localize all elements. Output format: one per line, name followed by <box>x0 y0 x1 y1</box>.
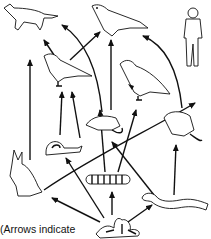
bird-icon <box>44 54 92 86</box>
caterpillar-icon <box>86 175 130 184</box>
shrew-icon <box>86 116 122 133</box>
mouse-icon <box>164 112 202 141</box>
human-icon <box>184 8 202 66</box>
hawk-icon <box>92 5 148 36</box>
food-web-diagram <box>0 0 211 239</box>
plant-icon <box>96 218 139 238</box>
fox-icon <box>4 4 58 30</box>
diagram-caption: (Arrows indicate <box>0 223 75 235</box>
earthworm-icon <box>142 193 208 210</box>
grouse-icon <box>120 60 170 100</box>
snail-icon <box>46 142 82 155</box>
rabbit-icon <box>10 150 42 196</box>
